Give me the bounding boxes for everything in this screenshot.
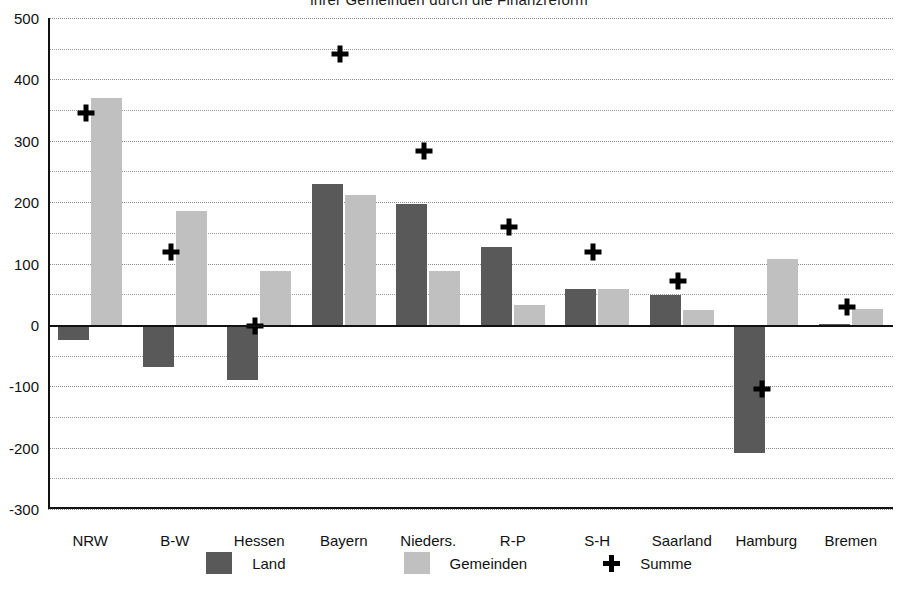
- bar-gemeinden-hamburg: [767, 259, 798, 325]
- bar-gemeinden-hessen: [260, 271, 291, 325]
- summe-marker-hamburg: [754, 380, 771, 397]
- y-tick-label: -100: [0, 378, 39, 395]
- summe-marker-s-h: [585, 244, 602, 261]
- x-axis-line: [48, 507, 893, 509]
- summe-marker-bayern: [331, 46, 348, 63]
- bar-gemeinden-saarland: [683, 310, 714, 325]
- bar-gemeinden-s-h: [598, 289, 629, 325]
- bar-gemeinden-bremen: [852, 309, 883, 325]
- bar-land-nieders-: [396, 204, 427, 325]
- y-tick-label: 200: [0, 194, 39, 211]
- summe-marker-b-w: [162, 244, 179, 261]
- x-tick-label-bremen: Bremen: [824, 532, 877, 549]
- y-axis-line: [48, 18, 50, 509]
- summe-marker-nieders-: [416, 143, 433, 160]
- x-tick-label-hessen: Hessen: [234, 532, 285, 549]
- y-tick-label: 100: [0, 255, 39, 272]
- bar-land-saarland: [650, 295, 681, 325]
- gridline: [48, 171, 893, 172]
- legend-label-land: Land: [252, 555, 285, 572]
- summe-marker-bremen: [838, 299, 855, 316]
- zero-axis-line: [48, 325, 893, 327]
- gridline: [48, 478, 893, 479]
- x-tick-label-nieders-: Nieders.: [400, 532, 456, 549]
- gridline: [48, 509, 893, 510]
- bar-land-s-h: [565, 289, 596, 325]
- y-tick-label: -300: [0, 501, 39, 518]
- x-tick-label-s-h: S-H: [584, 532, 610, 549]
- x-tick-label-nrw: NRW: [72, 532, 108, 549]
- y-tick-label: 400: [0, 71, 39, 88]
- summe-marker-r-p: [500, 219, 517, 236]
- bar-gemeinden-b-w: [176, 211, 207, 325]
- gridline: [48, 417, 893, 418]
- bar-gemeinden-nrw: [91, 98, 122, 325]
- y-tick-label: -200: [0, 439, 39, 456]
- bar-land-bayern: [312, 184, 343, 325]
- legend-entry-summe: Summe: [603, 555, 692, 572]
- x-tick-label-b-w: B-W: [160, 532, 189, 549]
- x-tick-label-saarland: Saarland: [652, 532, 712, 549]
- y-tick-label: 300: [0, 132, 39, 149]
- x-tick-label-r-p: R-P: [500, 532, 526, 549]
- x-tick-label-bayern: Bayern: [320, 532, 368, 549]
- legend-entry-gemeinden: Gemeinden: [404, 552, 528, 574]
- legend-label-summe: Summe: [640, 555, 692, 572]
- land-swatch-icon: [206, 552, 232, 574]
- gridline: [48, 264, 893, 265]
- plus-marker-icon: [603, 555, 620, 572]
- summe-marker-saarland: [669, 273, 686, 290]
- legend-label-gemeinden: Gemeinden: [450, 555, 528, 572]
- bar-gemeinden-bayern: [345, 195, 376, 325]
- plot-area: 5004003002001000-100-200-300 NRWB-WHesse…: [48, 18, 893, 509]
- gridline: [48, 18, 893, 19]
- gridline: [48, 448, 893, 449]
- bar-gemeinden-r-p: [514, 305, 545, 325]
- gridline: [48, 202, 893, 203]
- gridline: [48, 294, 893, 295]
- legend-entry-land: Land: [206, 552, 285, 574]
- bar-land-r-p: [481, 247, 512, 325]
- gemeinden-swatch-icon: [404, 552, 430, 574]
- y-tick-label: 0: [0, 316, 39, 333]
- bar-chart: ihrer Gemeinden durch die Finanzreform 5…: [0, 0, 898, 596]
- gridline: [48, 49, 893, 50]
- summe-marker-nrw: [78, 105, 95, 122]
- bar-gemeinden-nieders-: [429, 271, 460, 324]
- x-tick-label-hamburg: Hamburg: [735, 532, 797, 549]
- bar-land-b-w: [143, 325, 174, 367]
- y-tick-label: 500: [0, 10, 39, 27]
- bar-land-nrw: [58, 325, 89, 340]
- gridline: [48, 110, 893, 111]
- chart-title: ihrer Gemeinden durch die Finanzreform: [0, 0, 898, 8]
- chart-legend: Land Gemeinden Summe: [0, 552, 898, 574]
- gridline: [48, 356, 893, 357]
- gridline: [48, 233, 893, 234]
- gridline: [48, 79, 893, 80]
- gridline: [48, 141, 893, 142]
